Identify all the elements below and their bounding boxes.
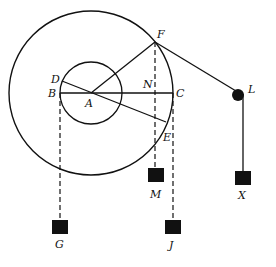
label-G: G [55,238,64,251]
weight-X [235,171,251,185]
label-C: C [176,87,185,100]
label-X: X [237,189,247,202]
weight-G [52,220,68,234]
weight-M [148,168,164,182]
label-M: M [149,188,162,201]
weight-J [165,220,181,234]
label-B: B [47,87,56,100]
pulley-diagram: F D B A N C E L M X G J [0,0,276,267]
string-FL [155,42,236,91]
label-D: D [50,73,60,86]
pulley-L [232,89,244,101]
label-N: N [142,78,153,91]
label-A: A [84,97,93,110]
label-J: J [167,239,174,252]
label-F: F [156,28,165,41]
label-E: E [162,131,171,144]
label-L: L [247,83,255,96]
